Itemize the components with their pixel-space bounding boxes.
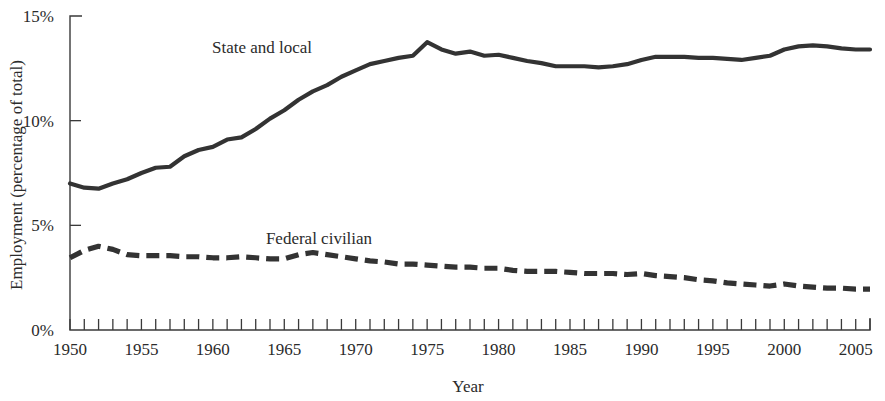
x-tick-label: 1950 [53,340,87,359]
x-tick-label: 1995 [696,340,730,359]
y-axis-tick-marks [70,121,81,226]
plot-area: 0%5%10%15% 19501955196019651970197519801… [7,7,873,396]
series-line-state-and-local [70,42,870,189]
x-tick-label: 2005 [839,340,873,359]
y-tick-label: 5% [31,216,54,235]
y-axis-tick-labels: 0%5%10%15% [23,7,54,340]
y-tick-label: 0% [31,321,54,340]
series-annotation-state-and-local: State and local [212,38,312,57]
x-axis-title: Year [452,377,484,396]
x-tick-label: 1965 [267,340,301,359]
x-axis-tick-labels: 1950195519601965197019751980198519901995… [53,340,873,359]
x-tick-label: 1955 [124,340,158,359]
y-tick-label: 15% [23,7,54,26]
x-axis-tick-marks [70,319,870,330]
y-tick-label: 10% [23,112,54,131]
x-tick-label: 2000 [767,340,801,359]
y-axis-title: Employment (percentage of total) [7,60,26,290]
chart-canvas: 0%5%10%15% 19501955196019651970197519801… [0,0,885,401]
x-tick-label: 1980 [482,340,516,359]
x-tick-label: 1985 [553,340,587,359]
series-annotations: State and localFederal civilian [212,38,373,248]
series-layer [70,42,870,289]
series-annotation-federal-civilian: Federal civilian [266,229,373,248]
series-line-federal-civilian [70,246,870,289]
x-tick-label: 1990 [624,340,658,359]
x-tick-label: 1970 [339,340,373,359]
x-tick-label: 1975 [410,340,444,359]
chart-figure: 0%5%10%15% 19501955196019651970197519801… [0,0,885,401]
x-tick-label: 1960 [196,340,230,359]
